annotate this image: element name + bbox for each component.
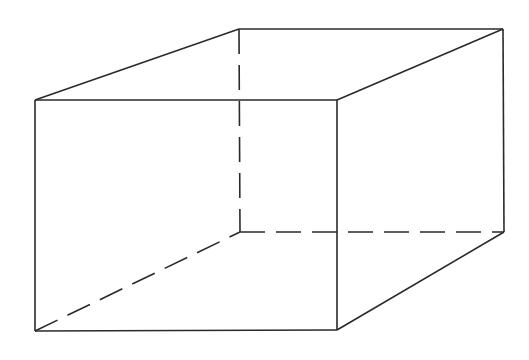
front-bottom-edge	[35, 330, 337, 331]
hidden-edges-group	[35, 29, 504, 331]
diagram-canvas	[0, 0, 529, 360]
bottom-right-receding-edge	[337, 232, 504, 330]
visible-edges-group	[35, 29, 504, 331]
rectangular-prism-diagram	[0, 0, 529, 360]
back-right-edge	[503, 29, 504, 232]
back-left-hidden-edge	[239, 29, 240, 232]
top-left-receding-edge	[35, 29, 239, 100]
bottom-left-hidden-receding-edge	[35, 232, 240, 331]
top-right-receding-edge	[337, 29, 503, 100]
